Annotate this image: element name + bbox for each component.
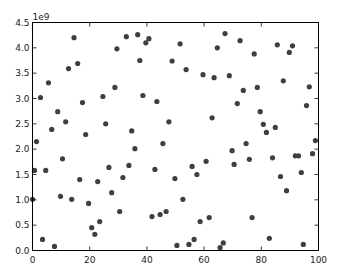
data-point	[247, 157, 252, 162]
y-offset-label: 1e9	[33, 12, 50, 22]
y-tick-label: 1.5	[15, 170, 29, 180]
data-point	[86, 201, 91, 206]
y-tick-label: 2.5	[15, 119, 29, 129]
data-point	[200, 72, 205, 77]
data-point	[164, 209, 169, 214]
data-point	[184, 67, 189, 72]
data-point	[100, 94, 105, 99]
x-tick-label: 80	[256, 255, 268, 265]
data-point	[204, 159, 209, 164]
y-tick-label: 4.5	[15, 18, 29, 28]
x-tick-label: 40	[141, 255, 153, 265]
data-point	[114, 46, 119, 51]
data-point	[190, 164, 195, 169]
x-tick-label: 100	[310, 255, 327, 265]
data-point	[301, 242, 306, 247]
data-point	[46, 80, 51, 85]
data-point	[137, 58, 142, 63]
data-point	[222, 31, 227, 36]
data-point	[258, 109, 263, 114]
scatter-chart: 020406080100 0.00.51.01.52.02.53.03.54.0…	[0, 0, 343, 274]
data-point	[178, 41, 183, 46]
data-point	[207, 215, 212, 220]
data-point	[89, 225, 94, 230]
data-point	[135, 32, 140, 37]
data-point	[129, 128, 134, 133]
data-point	[75, 61, 80, 66]
y-tick-label: 0.5	[15, 220, 29, 230]
data-point	[55, 109, 60, 114]
data-point	[158, 212, 163, 217]
data-point	[255, 85, 260, 90]
x-tick-label: 60	[198, 255, 210, 265]
y-tick-label: 4.0	[15, 43, 30, 53]
data-point	[310, 151, 315, 156]
y-tick-label: 2.0	[15, 144, 30, 154]
data-point	[172, 176, 177, 181]
data-point	[38, 95, 43, 100]
data-point	[218, 245, 223, 250]
data-point	[212, 75, 217, 80]
data-point	[152, 167, 157, 172]
data-point	[140, 93, 145, 98]
data-point	[241, 88, 246, 93]
data-point	[264, 130, 269, 135]
x-tick-label: 20	[84, 255, 96, 265]
data-point	[313, 138, 318, 143]
data-point	[160, 141, 165, 146]
data-point	[261, 122, 266, 127]
data-point	[180, 197, 185, 202]
data-point	[284, 188, 289, 193]
data-point	[83, 132, 88, 137]
y-tick-label: 3.0	[15, 94, 30, 104]
data-point	[281, 78, 286, 83]
data-point	[194, 172, 199, 177]
data-point	[103, 121, 108, 126]
data-point	[95, 179, 100, 184]
y-tick-label: 3.5	[15, 68, 29, 78]
data-point	[290, 43, 295, 48]
data-point	[250, 215, 255, 220]
data-point	[273, 125, 278, 130]
data-point	[77, 177, 82, 182]
data-point	[60, 156, 65, 161]
data-point	[143, 40, 148, 45]
figure-background	[0, 0, 343, 274]
data-point	[124, 34, 129, 39]
data-point	[287, 50, 292, 55]
data-point	[43, 168, 48, 173]
data-point	[174, 243, 179, 248]
data-point	[210, 115, 215, 120]
data-point	[235, 101, 240, 106]
data-point	[215, 45, 220, 50]
data-point	[296, 153, 301, 158]
data-point	[71, 35, 76, 40]
data-point	[49, 127, 54, 132]
data-point	[106, 165, 111, 170]
data-point	[192, 237, 197, 242]
data-point	[238, 38, 243, 43]
y-tick-label: 0.0	[15, 246, 30, 256]
data-point	[166, 119, 171, 124]
data-point	[92, 232, 97, 237]
data-point	[126, 163, 131, 168]
data-point	[112, 85, 117, 90]
data-point	[149, 214, 154, 219]
x-tick-label: 0	[30, 255, 36, 265]
data-point	[58, 194, 63, 199]
data-point	[146, 36, 151, 41]
data-point	[40, 237, 45, 242]
data-point	[80, 100, 85, 105]
data-point	[307, 84, 312, 89]
data-point	[109, 190, 114, 195]
data-point	[252, 51, 257, 56]
y-tick-label: 1.0	[15, 195, 30, 205]
data-point	[97, 219, 102, 224]
data-point	[275, 42, 280, 47]
data-point	[267, 236, 272, 241]
data-point	[230, 148, 235, 153]
data-point	[299, 170, 304, 175]
data-point	[304, 103, 309, 108]
data-point	[66, 66, 71, 71]
data-point	[278, 174, 283, 179]
